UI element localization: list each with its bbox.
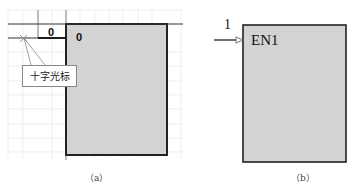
- arrow-right-icon: [236, 37, 243, 43]
- caption-b: （b）: [291, 171, 315, 184]
- function-block[interactable]: [66, 24, 167, 155]
- input-number: 1: [224, 17, 231, 33]
- row-label: 0: [48, 26, 54, 38]
- block-label: EN1: [251, 32, 279, 49]
- crosshair-callout: 十字光标: [22, 65, 77, 87]
- cell-label: 0: [76, 31, 82, 43]
- caption-a: （a）: [85, 171, 108, 184]
